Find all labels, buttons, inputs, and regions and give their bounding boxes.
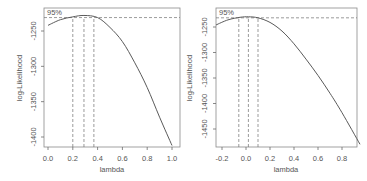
x-tick-label: 0.2 <box>68 154 78 163</box>
y-axis: -1250-1300-1350-1400 <box>29 21 44 146</box>
x-tick-label: 1.0 <box>167 154 177 163</box>
y-axis-title: log-Likelihood <box>185 55 194 101</box>
x-tick-label: 0.2 <box>265 154 275 163</box>
chart-canvas: 0.00.20.40.60.81.0lambda-1250-1300-1350-… <box>0 0 367 181</box>
y-tick-label: -1300 <box>200 43 209 62</box>
y-axis: -1250-1300-1350-1400-1450 <box>200 17 216 138</box>
x-tick-label: 0.4 <box>289 154 299 163</box>
x-axis-title: lambda <box>274 165 299 174</box>
x-tick-label: 0.0 <box>43 154 53 163</box>
x-tick-label: 0.6 <box>117 154 127 163</box>
x-axis-title: lambda <box>100 165 125 174</box>
confidence-label: 95% <box>219 8 234 17</box>
x-tick-label: 0.8 <box>337 154 347 163</box>
x-tick-label: -0.2 <box>216 154 229 163</box>
x-tick-label: 0.4 <box>92 154 102 163</box>
chart-panel-1: 0.00.20.40.60.81.0lambda-1250-1300-1350-… <box>15 8 180 174</box>
likelihood-curve <box>216 17 360 145</box>
x-tick-label: 0.6 <box>313 154 323 163</box>
y-tick-label: -1350 <box>29 92 38 111</box>
likelihood-curve <box>48 15 172 145</box>
x-axis: -0.20.00.20.40.60.8 <box>216 147 348 163</box>
y-tick-label: -1400 <box>29 127 38 146</box>
chart-panel-2: -0.20.00.20.40.60.8lambda-1250-1300-1350… <box>185 8 360 174</box>
y-tick-label: -1250 <box>200 17 209 36</box>
y-tick-label: -1300 <box>29 57 38 76</box>
y-tick-label: -1400 <box>200 94 209 113</box>
y-axis-title: log-Likelihood <box>15 55 24 101</box>
x-tick-label: 0.0 <box>241 154 251 163</box>
confidence-label: 95% <box>47 8 62 17</box>
y-tick-label: -1250 <box>29 21 38 40</box>
x-axis: 0.00.20.40.60.81.0 <box>43 147 177 163</box>
y-tick-label: -1450 <box>200 119 209 138</box>
plot-frame <box>216 8 357 147</box>
y-tick-label: -1350 <box>200 68 209 87</box>
x-tick-label: 0.8 <box>142 154 152 163</box>
